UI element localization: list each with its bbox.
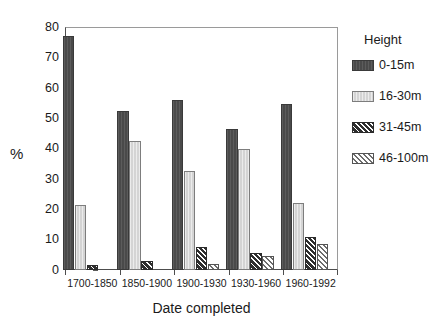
x-axis-tick-mark: [229, 270, 230, 275]
legend-swatch: [352, 91, 374, 102]
bar: [184, 171, 195, 270]
bar: [129, 141, 140, 270]
y-axis-tick-label: 10: [45, 233, 59, 246]
x-axis-tick-mark: [283, 270, 284, 275]
x-axis-tick-labels: 1700-18501850-19001900-19301930-19601960…: [0, 278, 440, 294]
bar: [226, 129, 237, 270]
y-axis-tick-label: 0: [52, 264, 59, 277]
legend-item: 0-15m: [352, 58, 438, 72]
legend: Height 0-15m16-30m31-45m46-100m: [352, 33, 438, 182]
x-axis-tick-mark: [65, 270, 66, 275]
y-axis-tick-label: 40: [45, 142, 59, 155]
legend-swatch: [352, 122, 374, 133]
bar: [293, 203, 304, 270]
bar: [172, 100, 183, 270]
bars-layer: [65, 27, 338, 270]
y-axis-tick-label: 50: [45, 112, 59, 125]
bar: [196, 247, 207, 270]
legend-item: 16-30m: [352, 89, 438, 103]
x-axis-tick-label: 1850-1900: [122, 278, 172, 289]
y-axis-tick-label: 80: [45, 21, 59, 34]
y-axis-tick-label: 20: [45, 203, 59, 216]
y-axis-tick-label: 70: [45, 51, 59, 64]
x-axis-tick-label: 1930-1960: [231, 278, 281, 289]
x-axis-tick-mark: [174, 270, 175, 275]
legend-swatch: [352, 60, 374, 71]
x-axis-tick-mark: [120, 270, 121, 275]
x-axis-tick-label: 1700-1850: [67, 278, 117, 289]
y-axis-tick-label: 60: [45, 82, 59, 95]
bar: [317, 244, 328, 270]
bar: [63, 36, 74, 270]
legend-title: Height: [364, 33, 438, 47]
bar: [262, 256, 273, 270]
y-axis-label: %: [10, 146, 24, 161]
bar: [117, 111, 128, 270]
x-axis-tick-marks: [65, 270, 338, 276]
legend-swatch: [352, 153, 374, 164]
bar: [305, 237, 316, 270]
legend-label: 46-100m: [379, 152, 428, 165]
x-axis-label: Date completed: [65, 300, 338, 316]
bar: [141, 261, 152, 270]
legend-item: 46-100m: [352, 151, 438, 165]
x-axis-tick-mark: [337, 270, 338, 275]
bar-chart: % 01020304050607080 1700-18501850-190019…: [0, 0, 440, 334]
bar: [238, 149, 249, 271]
legend-label: 0-15m: [379, 59, 414, 72]
bar: [250, 253, 261, 270]
legend-label: 31-45m: [379, 121, 421, 134]
legend-items: 0-15m16-30m31-45m46-100m: [352, 58, 438, 165]
legend-label: 16-30m: [379, 90, 421, 103]
legend-item: 31-45m: [352, 120, 438, 134]
bar: [281, 104, 292, 270]
x-axis-tick-label: 1960-1992: [286, 278, 336, 289]
x-axis-tick-label: 1900-1930: [176, 278, 226, 289]
y-axis-tick-label: 30: [45, 173, 59, 186]
bar: [75, 205, 86, 270]
